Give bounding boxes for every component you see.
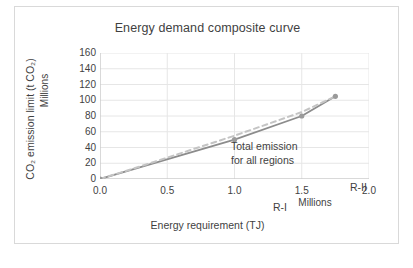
chart-title: Energy demand composite curve [15,21,400,35]
x-tick-label: 0.0 [80,185,120,196]
y-tick-label: 160 [68,48,96,58]
x-axis-unit-label: Millions [260,197,370,208]
x-tick-label: 1.5 [282,185,322,196]
y-tick-label: 20 [68,158,96,168]
y-tick-label: 100 [68,95,96,105]
data-point-markers [100,94,338,179]
data-series-layer [100,96,335,179]
plot-area: Total emission for all regions R-I R-II … [100,53,369,179]
y-tick-label: 140 [68,64,96,74]
x-axis-title: Energy requirement (TJ) [15,219,400,231]
y-axis-tick-labels: 020406080100120140160 [65,53,96,179]
y-tick-label: 120 [68,80,96,90]
x-tick-label: 0.5 [147,185,187,196]
annotation-total-emission-line2: for all regions [231,153,298,167]
x-axis-tick-labels: 0.00.51.01.52.0 [100,183,369,197]
x-tick-label: 2.0 [349,185,389,196]
y-tick-label: 80 [68,111,96,121]
y-axis-title: CO₂ emission limit (t CO₂) [24,34,36,204]
chart-figure: Energy demand composite curve CO₂ emissi… [14,6,399,244]
y-axis-unit-label: Millions [39,46,50,136]
annotation-total-emission: Total emission for all regions [231,139,298,167]
y-tick-label: 40 [68,143,96,153]
y-tick-label: 60 [68,127,96,137]
y-tick-label: 0 [68,174,96,184]
annotation-total-emission-line1: Total emission [231,139,298,153]
x-tick-label: 1.0 [215,185,255,196]
